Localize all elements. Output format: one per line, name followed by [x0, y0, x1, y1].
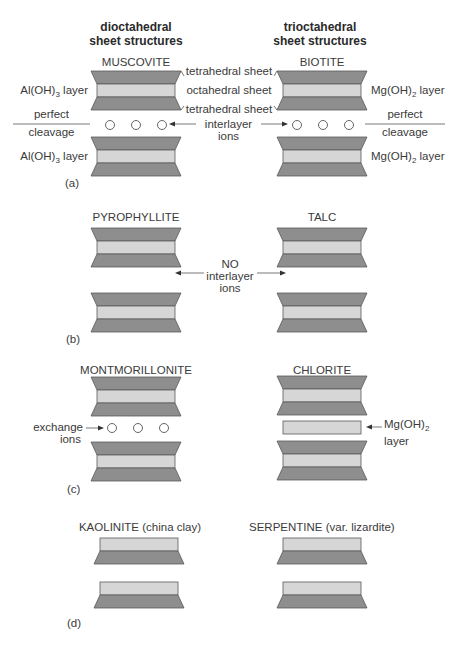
label-exchange-ions: exchange ions [20, 421, 83, 445]
label-octahedral-sheet: octahedral sheet [184, 84, 274, 97]
label-mgoh2-layer-bottom: Mg(OH)2 layer [371, 150, 444, 167]
header-right-line1: trioctahedral [254, 20, 386, 34]
biotite-structure [277, 71, 367, 176]
muscovite-structure [91, 71, 181, 176]
label-mgoh2-layer-top: Mg(OH)2 layer [371, 84, 444, 101]
header-trioctahedral: trioctahedral sheet structures [254, 20, 386, 48]
label-perfect-right: perfect [365, 108, 445, 121]
label-cleavage-left: cleavage [13, 126, 90, 139]
header-left-line2: sheet structures [70, 34, 202, 48]
label-tetrahedral-sheet-top: tetrahedral sheet [184, 65, 274, 78]
mineral-serpentine: SERPENTINE (var. lizardite) [249, 521, 395, 534]
label-chlorite-mgoh2-layer: Mg(OH)2 layer [384, 418, 429, 447]
talc-upper [277, 228, 367, 267]
label-interlayer-ions: interlayer ions [196, 118, 261, 142]
header-dioctahedral: dioctahedral sheet structures [70, 20, 202, 48]
pyrophyllite-lower [91, 293, 181, 332]
chlorite-lower [277, 441, 367, 480]
label-no-interlayer-ions: NO interlayer ions [200, 258, 260, 294]
serpentine-upper [277, 538, 367, 564]
mineral-kaolinite: KAOLINITE (china clay) [66, 521, 214, 534]
label-cleavage-right: cleavage [365, 126, 445, 139]
kaolinite-lower [94, 582, 184, 608]
serpentine-lower [277, 582, 367, 608]
panel-label-d: (d) [67, 617, 81, 630]
label-tetrahedral-sheet-bottom: tetrahedral sheet [184, 103, 274, 116]
mineral-pyrophyllite: PYROPHYLLITE [76, 211, 196, 224]
panel-label-b: (b) [66, 333, 80, 346]
label-aloh3-layer-top: Al(OH)3 layer [8, 84, 88, 101]
header-left-line1: dioctahedral [70, 20, 202, 34]
mineral-muscovite: MUSCOVITE [86, 56, 186, 69]
chlorite-upper [277, 376, 367, 415]
montmorillonite-lower [91, 442, 181, 481]
label-aloh3-layer-bottom: Al(OH)3 layer [8, 150, 88, 167]
panel-label-c: (c) [67, 483, 80, 496]
header-right-line2: sheet structures [254, 34, 386, 48]
pyrophyllite-upper [91, 228, 181, 267]
label-perfect-left: perfect [13, 108, 90, 121]
montmorillonite-upper [91, 377, 181, 416]
mineral-chlorite: CHLORITE [272, 364, 372, 377]
talc-lower [277, 293, 367, 332]
chlorite-brucite-layer [283, 421, 361, 434]
panel-label-a: (a) [65, 177, 79, 190]
mineral-montmorillonite: MONTMORILLONITE [76, 364, 196, 377]
mineral-biotite: BIOTITE [272, 56, 372, 69]
mineral-talc: TALC [272, 211, 372, 224]
kaolinite-upper [94, 538, 184, 564]
